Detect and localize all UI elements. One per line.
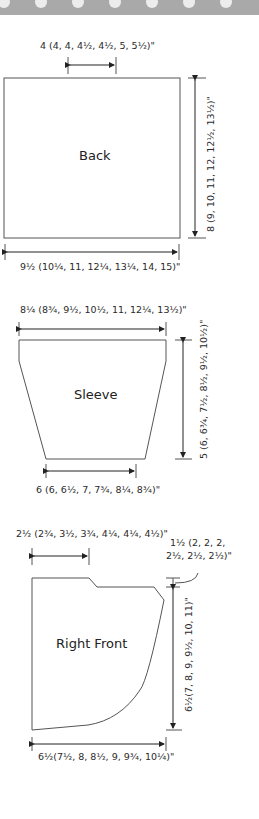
right-front-piece-name: Right Front (56, 636, 127, 651)
back-neck-width-label: 4 (4, 4, 4½, 4½, 5, 5½)" (40, 40, 155, 51)
right-front-length-label: 6½(7, 8, 9, 9½, 10, 11)" (183, 597, 194, 712)
sleeve-cuff-width-label: 6 (6, 6½, 7, 7¾, 8¼, 8¾)" (36, 484, 160, 495)
right-front-shoulder-drop-label-1: 1½ (2, 2, 2, (170, 537, 225, 548)
sleeve-top-width-label: 8¼ (8¾, 9½, 10½, 11, 12¼, 13½)" (20, 304, 187, 315)
right-front-shoulder-drop-label-2: 2½, 2½, 2½)" (166, 550, 232, 561)
sleeve-piece-name: Sleeve (74, 387, 118, 402)
back-width-label: 9½ (10¼, 11, 12¼, 13¼, 14, 15)" (20, 261, 180, 272)
back-piece-name: Back (79, 148, 111, 163)
right-front-outline (32, 578, 164, 730)
sleeve-length-label: 5 (6, 6¾, 7½, 8½, 9½, 10½)" (198, 320, 209, 459)
right-front-width-label: 6½(7½, 8, 8½, 9, 9¾, 10¼)" (38, 751, 174, 762)
schematic-drawing (0, 0, 259, 819)
right-front-shoulder-width-label: 2½ (2¾, 3½, 3¾, 4¼, 4¼, 4½)" (16, 528, 168, 539)
back-length-label: 8 (9, 10, 11, 12, 12½, 13½)" (205, 96, 216, 232)
